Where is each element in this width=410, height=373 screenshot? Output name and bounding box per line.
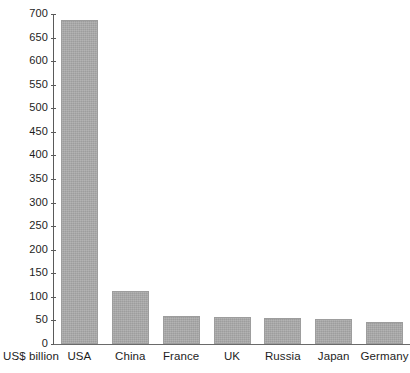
- y-axis-tick: 550: [0, 85, 56, 86]
- y-axis-tick-label: 400: [29, 148, 48, 161]
- y-axis-tick-label: 650: [29, 31, 48, 44]
- bar-france: [163, 316, 200, 344]
- y-axis-tick-label: 450: [29, 125, 48, 138]
- y-axis-tick-label: 200: [29, 243, 48, 256]
- y-axis-tick: 50: [0, 320, 56, 321]
- y-axis-tick: 350: [0, 179, 56, 180]
- y-axis-tick: 400: [0, 155, 56, 156]
- y-axis-tick-label: 350: [29, 172, 48, 185]
- bar-germany: [366, 322, 403, 344]
- y-axis-tick-label: 500: [29, 101, 48, 114]
- y-axis-tick: 200: [0, 250, 56, 251]
- y-axis-tick: 0: [0, 344, 56, 345]
- bar-china: [112, 291, 149, 344]
- y-axis-tick: 700: [0, 14, 56, 15]
- x-axis-label: Japan: [308, 349, 359, 363]
- bar-russia: [264, 318, 301, 344]
- x-axis-label: Germany: [359, 349, 410, 363]
- bar-usa: [61, 20, 98, 344]
- plot-area: [54, 14, 410, 345]
- x-axis-label: Russia: [257, 349, 308, 363]
- y-axis-tick-label: 300: [29, 196, 48, 209]
- x-axis-label: USA: [54, 349, 105, 363]
- y-axis-tick-label: 550: [29, 78, 48, 91]
- bar-uk: [214, 317, 251, 344]
- y-axis-tick: 300: [0, 203, 56, 204]
- x-axis-label: France: [156, 349, 207, 363]
- y-axis-tick: 500: [0, 108, 56, 109]
- x-axis-label: China: [105, 349, 156, 363]
- y-axis-tick-label: 600: [29, 54, 48, 67]
- y-axis-tick: 600: [0, 61, 56, 62]
- bar-chart: 0501001502002503003504004505005506006507…: [0, 0, 410, 373]
- x-axis-baseline: [54, 344, 410, 345]
- x-axis-label-group: USAChinaFranceUKRussiaJapanGermany: [54, 349, 410, 367]
- x-axis-label: UK: [207, 349, 258, 363]
- y-axis-tick: 450: [0, 132, 56, 133]
- y-axis: 0501001502002503003504004505005506006507…: [0, 0, 56, 373]
- y-axis-tick: 150: [0, 273, 56, 274]
- y-axis-tick-label: 700: [29, 7, 48, 20]
- y-axis-tick-label: 50: [36, 313, 48, 326]
- y-axis-unit-label: US$ billion: [3, 349, 59, 363]
- y-axis-tick: 650: [0, 38, 56, 39]
- y-axis-tick-label: 250: [29, 219, 48, 232]
- y-axis-tick-label: 100: [29, 290, 48, 303]
- bar-japan: [315, 319, 352, 344]
- y-axis-tick: 250: [0, 226, 56, 227]
- y-axis-tick-label: 150: [29, 266, 48, 279]
- y-axis-tick: 100: [0, 297, 56, 298]
